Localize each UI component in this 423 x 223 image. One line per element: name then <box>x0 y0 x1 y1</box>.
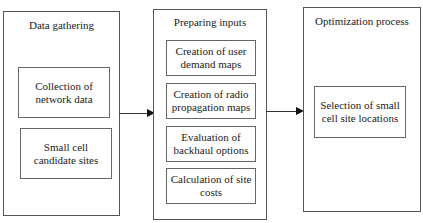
stage-data-gathering: Data gathering Collection of network dat… <box>3 11 120 216</box>
arrow-connector <box>119 113 153 114</box>
stage-title: Preparing inputs <box>154 16 266 28</box>
stage-preparing-inputs: Preparing inputs Creation of user demand… <box>153 9 267 220</box>
stage-title: Data gathering <box>4 19 119 31</box>
step-user-demand-maps: Creation of user demand maps <box>166 40 256 76</box>
step-radio-propagation-maps: Creation of radio propagation maps <box>166 83 256 119</box>
step-site-costs: Calculation of site costs <box>166 168 256 204</box>
step-collection-network-data: Collection of network data <box>18 67 110 118</box>
stage-optimization-process: Optimization process Selection of small … <box>303 7 421 212</box>
arrow-connector <box>266 111 302 112</box>
stage-title: Optimization process <box>304 15 420 27</box>
step-selection-site-locations: Selection of small cell site locations <box>314 86 406 138</box>
step-backhaul-options: Evaluation of backhaul options <box>166 126 256 162</box>
step-small-cell-candidate-sites: Small cell candidate sites <box>20 128 112 179</box>
